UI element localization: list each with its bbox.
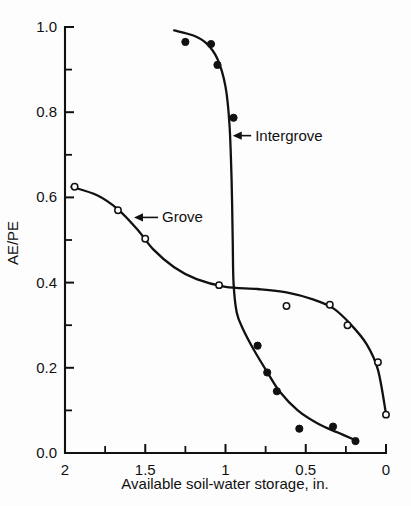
x-tick-label: 2 (61, 461, 69, 478)
data-point-intergrove (230, 114, 237, 121)
y-tick-label: 0.4 (36, 274, 57, 291)
series-annotations-group: IntergroveGrove (134, 127, 323, 226)
data-point-grove (327, 302, 333, 308)
y-axis-title: AE/PE (4, 221, 21, 265)
data-point-intergrove (264, 369, 271, 376)
annotation-label: Grove (162, 208, 203, 225)
chart-figure: 0.00.20.40.60.81.021.510.50 IntergroveGr… (0, 0, 411, 506)
x-axis-title: Available soil-water storage, in. (121, 475, 328, 492)
data-point-grove (115, 207, 121, 213)
data-point-intergrove (182, 38, 189, 45)
data-point-intergrove (273, 388, 280, 395)
data-point-intergrove (214, 61, 221, 68)
data-point-grove (283, 303, 289, 309)
data-point-intergrove (329, 423, 336, 430)
y-tick-label: 0.8 (36, 103, 57, 120)
x-tick-label: 0 (382, 461, 390, 478)
curve-grove (71, 187, 386, 414)
data-point-grove (216, 282, 222, 288)
data-point-intergrove (352, 437, 359, 444)
data-point-grove (344, 322, 350, 328)
data-point-intergrove (254, 342, 261, 349)
tick-labels-group: 0.00.20.40.60.81.021.510.50 (36, 18, 390, 478)
data-point-intergrove (296, 425, 303, 432)
annotation-grove: Grove (134, 208, 203, 225)
scatter-plot-svg: 0.00.20.40.60.81.021.510.50 IntergroveGr… (0, 0, 411, 506)
data-point-grove (142, 236, 148, 242)
annotation-intergrove: Intergrove (233, 127, 323, 144)
y-tick-label: 0.0 (36, 444, 57, 461)
data-point-grove (71, 184, 77, 190)
annotation-arrow-head (233, 131, 242, 139)
curve-intergrove (174, 30, 355, 440)
data-curves-group (71, 30, 386, 440)
data-point-grove (375, 359, 381, 365)
annotation-arrow-head (134, 213, 143, 221)
data-point-grove (383, 411, 389, 417)
annotation-label: Intergrove (255, 127, 323, 144)
data-markers-group (71, 38, 389, 444)
data-point-intergrove (207, 40, 214, 47)
y-tick-label: 0.6 (36, 188, 57, 205)
y-tick-label: 1.0 (36, 18, 57, 35)
y-tick-label: 0.2 (36, 359, 57, 376)
